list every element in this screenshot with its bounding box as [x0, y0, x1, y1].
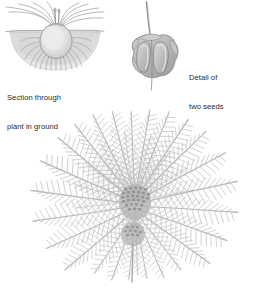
crown-scale: [132, 191, 135, 193]
seeds-drawing: [118, 0, 198, 95]
leaf: [6, 7, 52, 25]
crown-scale: [136, 195, 139, 197]
crown-scale: [132, 199, 135, 201]
crown-scale: [142, 200, 145, 202]
crown-scale: [142, 192, 145, 194]
seed-stalk: [151, 76, 152, 90]
awn-group: [147, 2, 152, 37]
crown-scale: [127, 191, 130, 193]
stem-scale: [126, 234, 129, 236]
crown-scale: [121, 196, 124, 198]
stem-scale: [134, 230, 137, 232]
awn-bristle: [147, 2, 151, 37]
crown-scale: [126, 195, 129, 197]
crown-scale: [133, 208, 136, 210]
crown-scale: [134, 187, 137, 189]
crown-scale: [130, 203, 133, 205]
bulb-group: [40, 24, 72, 59]
leaf: [9, 12, 52, 25]
stem-scale: [136, 226, 139, 228]
crown-scale: [128, 208, 131, 210]
crown-scale: [135, 203, 138, 205]
stem-scale: [124, 230, 127, 232]
crown-scale: [140, 204, 143, 206]
figure-section-through-plant: [0, 0, 125, 72]
crown-scale: [147, 193, 150, 195]
central-shoots-group: [54, 8, 60, 24]
figure-detail-two-seeds: [118, 0, 198, 95]
stem-scale: [131, 226, 134, 228]
crown-group: [119, 184, 151, 220]
section-drawing: [0, 0, 125, 72]
illustration-plate: Section through plant in ground: [0, 0, 270, 295]
stem-base-group: [121, 222, 145, 282]
crown-scale: [141, 196, 144, 198]
crown-scale: [146, 197, 149, 199]
crown-scale: [127, 199, 130, 201]
crown-scale: [138, 208, 141, 210]
crown-scale: [125, 204, 128, 206]
crown-scale: [129, 187, 132, 189]
stem-scale: [131, 234, 134, 236]
crown-scale: [144, 188, 147, 190]
plant-drawing: [4, 96, 266, 295]
shoot-right-tip: [58, 9, 60, 13]
crown-scale: [122, 200, 125, 202]
shoot-right: [59, 12, 60, 24]
stem-scale: [139, 231, 142, 233]
stem-scale: [129, 230, 132, 232]
shoot-left-tip: [54, 8, 56, 12]
leaf: [62, 18, 103, 27]
shoot-left: [55, 11, 56, 24]
figure-whole-plant-rosette: [4, 96, 266, 295]
crown-scale: [137, 191, 140, 193]
crown-scale: [131, 195, 134, 197]
caption-seeds-line1: Detail of: [189, 73, 224, 83]
crown-scale: [122, 192, 125, 194]
bulb-inner-shading: [42, 26, 64, 50]
crown-scale: [139, 187, 142, 189]
stem-scale: [136, 234, 139, 236]
crown-scale: [124, 188, 127, 190]
crown-scale: [137, 199, 140, 201]
stem-scale: [126, 226, 129, 228]
